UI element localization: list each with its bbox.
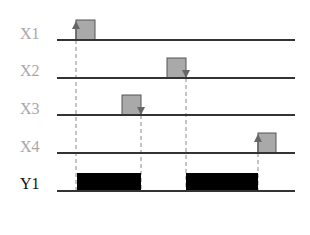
output-high-block-2 [186, 173, 258, 191]
timing-diagram: X1 X2 X3 X4 Y1 [0, 0, 310, 235]
pulse-x1 [76, 20, 95, 40]
waveform-canvas [0, 0, 310, 235]
output-high-block-1 [77, 173, 141, 191]
pulse-x3 [122, 95, 141, 115]
pulse-x4 [258, 133, 276, 153]
pulse-x2 [167, 58, 186, 78]
